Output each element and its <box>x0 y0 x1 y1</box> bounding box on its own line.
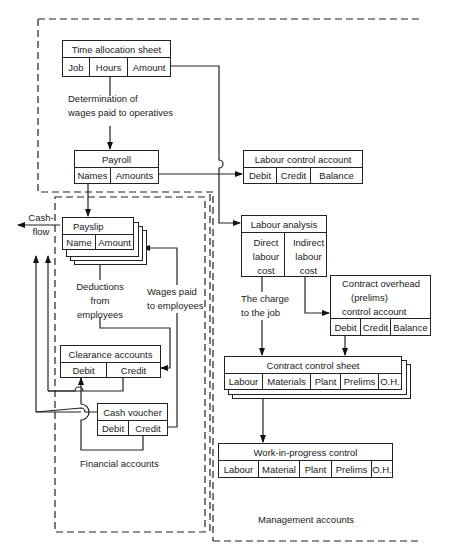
contract-control-title: Contract control sheet <box>225 357 401 374</box>
contract-overhead-control-account: Contract overhead (prelims) control acco… <box>330 275 431 336</box>
wip-title: Work-in-progress control <box>219 444 392 461</box>
payslip-title: Payslip <box>63 218 133 235</box>
cell-debit: Debit <box>244 168 277 183</box>
payroll: Payroll Names Amounts <box>74 150 159 184</box>
cell-credit: Credit <box>129 421 167 435</box>
labour-analysis: Labour analysis Direct labour cost Indir… <box>241 215 327 277</box>
payslip: Payslip Name Amount <box>62 217 134 250</box>
contract-control-sheet: Contract control sheet Labour Materials … <box>224 356 402 390</box>
cell-debit: Debit <box>98 421 129 435</box>
label-determination: Determination of wages paid to operative… <box>68 92 173 120</box>
contract-overhead-title: Contract overhead (prelims) control acco… <box>331 276 430 319</box>
cell-amounts: Amounts <box>111 168 158 183</box>
cell-debit: Debit <box>61 363 107 377</box>
financial-accounts-label: Financial accounts <box>80 457 159 471</box>
labour-analysis-title: Labour analysis <box>242 216 326 233</box>
clearance-accounts: Clearance accounts Debit Credit <box>60 345 161 378</box>
label-wages-paid: Wages paid to employees <box>147 285 204 313</box>
label-deductions: Deductions from employees <box>72 280 128 322</box>
cell-hours: Hours <box>90 58 128 76</box>
cell-name: Name <box>63 235 96 249</box>
cash-voucher-title: Cash voucher <box>98 404 167 421</box>
cell-amount: Amount <box>128 58 170 76</box>
clearance-title: Clearance accounts <box>61 346 160 363</box>
time-allocation-title: Time allocation sheet <box>63 41 170 58</box>
cell-oh: O.H. <box>372 461 392 477</box>
cell-amount: Amount <box>96 235 133 249</box>
cell-labour: Labour <box>219 461 259 477</box>
cell-balance: Balance <box>311 168 362 183</box>
cell-labour: Labour <box>225 374 263 389</box>
cell-direct-labour-cost: Direct labour cost <box>242 233 285 276</box>
cash-voucher: Cash voucher Debit Credit <box>97 403 168 436</box>
cell-prelims: Prelims <box>341 374 379 389</box>
cell-credit: Credit <box>277 168 311 183</box>
cell-names: Names <box>75 168 111 183</box>
cell-oh: O.H. <box>379 374 401 389</box>
cell-balance: Balance <box>391 319 430 335</box>
cell-indirect-labour-cost: Indirect labour cost <box>285 233 326 276</box>
cell-material: Material <box>259 461 300 477</box>
cell-credit: Credit <box>361 319 391 335</box>
management-accounts-label: Management accounts <box>258 513 354 527</box>
label-charge-to-job: The charge to the job <box>241 292 289 320</box>
time-allocation-sheet: Time allocation sheet Job Hours Amount <box>62 40 171 77</box>
cell-debit: Debit <box>331 319 361 335</box>
cell-materials: Materials <box>263 374 311 389</box>
cell-prelims: Prelims <box>332 461 372 477</box>
payroll-title: Payroll <box>75 151 158 168</box>
cell-plant: Plant <box>311 374 341 389</box>
labour-control-account: Labour control account Debit Credit Bala… <box>243 150 363 184</box>
cell-credit: Credit <box>107 363 160 377</box>
cell-plant: Plant <box>300 461 332 477</box>
cell-job: Job <box>63 58 90 76</box>
labour-control-title: Labour control account <box>244 151 362 168</box>
work-in-progress-control: Work-in-progress control Labour Material… <box>218 443 393 478</box>
label-cash-flow: Cash- flow <box>26 211 56 239</box>
